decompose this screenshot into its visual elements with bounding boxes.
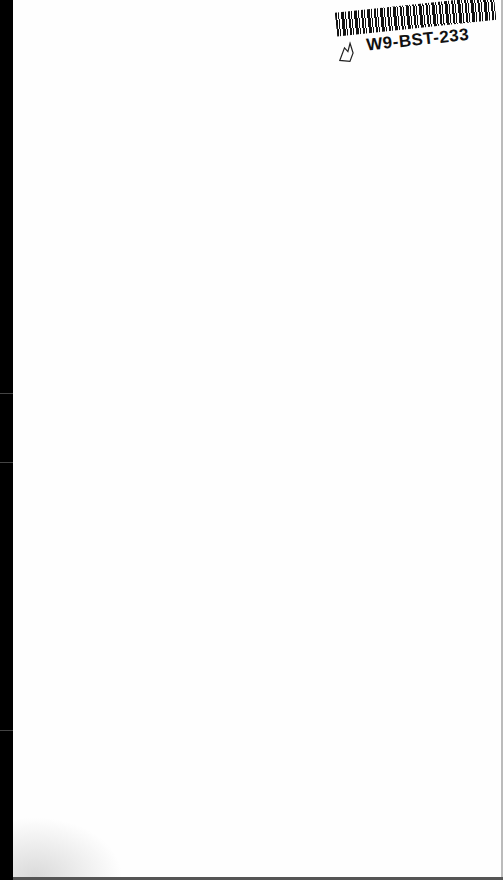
scan-smudge (13, 817, 123, 877)
blank-page (13, 0, 501, 877)
hand-drawn-glyph-icon (336, 41, 358, 65)
binding-mark (0, 462, 13, 463)
binding-mark (0, 730, 13, 731)
binding-mark (0, 393, 13, 394)
